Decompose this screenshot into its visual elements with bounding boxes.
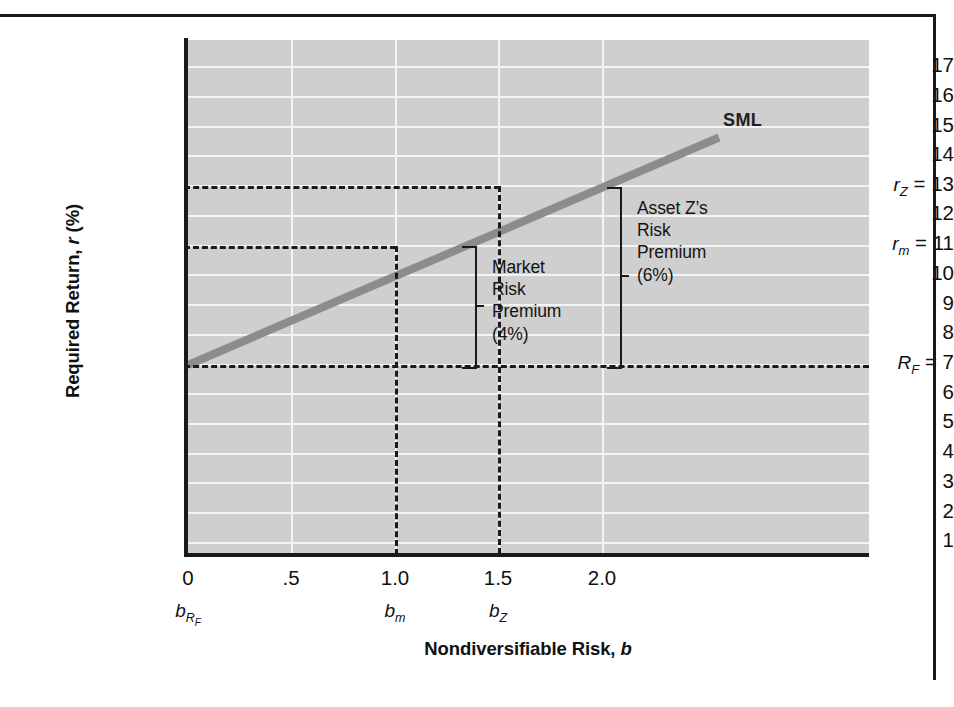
market-annotation-line-3: Premium: [492, 300, 561, 322]
y-tick-7-rf: RF = 7: [774, 350, 954, 377]
y-tick-12: 12: [774, 201, 954, 225]
sml-chart-figure: Required Return, r (%): [0, 0, 954, 707]
bm-subscript: m: [395, 611, 405, 625]
guide-line-rz: [184, 186, 500, 189]
y-axis-title-symbol: r: [62, 237, 83, 244]
x-tick-1.0: 1.0: [350, 566, 440, 590]
market-risk-premium-bracket: [462, 246, 477, 369]
x-tick-0.5: .5: [246, 566, 336, 590]
y-tick-11-rm: rm = 11: [774, 231, 954, 258]
x-axis-title-symbol: b: [620, 638, 631, 659]
y-axis-title-post: (%): [62, 204, 83, 238]
rf-symbol: R: [898, 352, 912, 373]
guide-line-rm: [184, 246, 396, 249]
y-tick-14: 14: [774, 142, 954, 166]
bz-subscript: Z: [499, 611, 507, 625]
x-tick-1.5: 1.5: [453, 566, 543, 590]
sml-series-label: SML: [723, 110, 762, 131]
asset-z-risk-premium-bracket: [607, 187, 622, 370]
bm-symbol: b: [385, 600, 396, 621]
x-symbol-brf: bRF: [143, 600, 233, 627]
guide-line-rf: [184, 365, 869, 368]
brf-subscript: RF: [186, 611, 201, 625]
y-tick-6: 6: [774, 380, 954, 404]
market-risk-premium-annotation: Market Risk Premium (4%): [492, 256, 561, 345]
y-tick-9: 9: [774, 291, 954, 315]
y-tick-5: 5: [774, 409, 954, 433]
y-tick-8: 8: [774, 320, 954, 344]
brf-symbol: b: [175, 600, 186, 621]
plot-area: Market Risk Premium (4%) Asset Z’s Risk …: [188, 40, 869, 553]
y-axis-line: [184, 38, 188, 557]
y-tick-4: 4: [774, 439, 954, 463]
guide-line-bm: [395, 246, 398, 555]
asset-z-risk-premium-bracket-nub: [620, 275, 629, 277]
y-tick-1: 1: [774, 528, 954, 552]
rz-subscript: Z: [900, 184, 908, 199]
rm-equals: =: [909, 231, 932, 254]
assetz-annotation-line-1: Asset Z’s: [637, 197, 708, 219]
bz-symbol: b: [489, 600, 500, 621]
y-axis-title-pre: Required Return,: [62, 245, 83, 399]
guide-line-bz: [498, 186, 501, 554]
x-axis-line: [184, 553, 869, 557]
x-tick-2.0: 2.0: [557, 566, 647, 590]
x-symbol-bz: bZ: [453, 600, 543, 625]
x-tick-0: 0: [143, 566, 233, 590]
assetz-annotation-line-3: Premium: [637, 241, 708, 263]
asset-z-risk-premium-annotation: Asset Z’s Risk Premium (6%): [637, 197, 708, 286]
x-axis-title: Nondiversifiable Risk, b: [187, 638, 869, 660]
y-tick-2: 2: [774, 499, 954, 523]
y-tick-11-value: 11: [933, 231, 954, 254]
x-axis-title-pre: Nondiversifiable Risk,: [424, 638, 620, 659]
market-annotation-line-1: Market: [492, 256, 561, 278]
y-tick-16: 16: [774, 83, 954, 107]
x-symbol-bm: bm: [350, 600, 440, 625]
assetz-annotation-line-4: (6%): [637, 264, 708, 286]
y-tick-13-value: 13: [931, 172, 954, 195]
y-tick-10: 10: [774, 261, 954, 285]
y-tick-7-value: 7: [943, 350, 954, 373]
y-tick-17: 17: [774, 53, 954, 77]
y-tick-13-rz: rZ = 13: [774, 172, 954, 199]
brf-subsubscript: F: [195, 616, 201, 627]
assetz-annotation-line-2: Risk: [637, 219, 708, 241]
rf-equals: =: [919, 350, 942, 373]
y-tick-3: 3: [774, 469, 954, 493]
market-annotation-line-4: (4%): [492, 323, 561, 345]
y-axis-title: Required Return, r (%): [62, 136, 84, 466]
y-tick-15: 15: [774, 113, 954, 137]
market-risk-premium-bracket-nub: [475, 305, 484, 307]
market-annotation-line-2: Risk: [492, 278, 561, 300]
rz-equals: =: [908, 172, 931, 195]
rm-subscript: m: [899, 243, 910, 258]
